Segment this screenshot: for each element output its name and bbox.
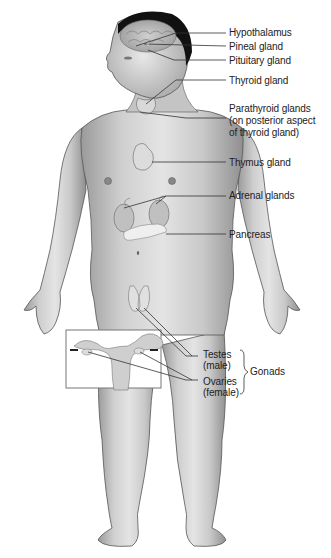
label-testes: Testes — [203, 349, 231, 361]
ovaries-inset — [66, 330, 163, 390]
label-thymus-gland: Thymus gland — [229, 157, 291, 169]
label-parathyroid-note-1: (on posterior aspect — [229, 115, 315, 127]
head — [106, 12, 192, 99]
label-parathyroid-note-2: of thyroid gland) — [229, 127, 299, 139]
endocrine-diagram: Hypothalamus Pineal gland Pituitary glan… — [0, 0, 331, 558]
label-ovaries: Ovaries — [203, 376, 237, 388]
label-parathyroid-glands: Parathyroid glands — [229, 103, 311, 115]
label-ovaries-female: (female) — [203, 387, 239, 399]
label-pituitary-gland: Pituitary gland — [229, 55, 291, 67]
label-hypothalamus: Hypothalamus — [229, 27, 292, 39]
label-pancreas: Pancreas — [229, 229, 270, 241]
label-thyroid-gland: Thyroid gland — [229, 75, 288, 87]
label-testes-male: (male) — [203, 360, 231, 372]
label-pineal-gland: Pineal gland — [229, 41, 283, 53]
gonads-brace — [240, 350, 248, 394]
label-gonads: Gonads — [250, 366, 285, 377]
label-adrenal-glands: Adrenal glands — [229, 190, 294, 202]
